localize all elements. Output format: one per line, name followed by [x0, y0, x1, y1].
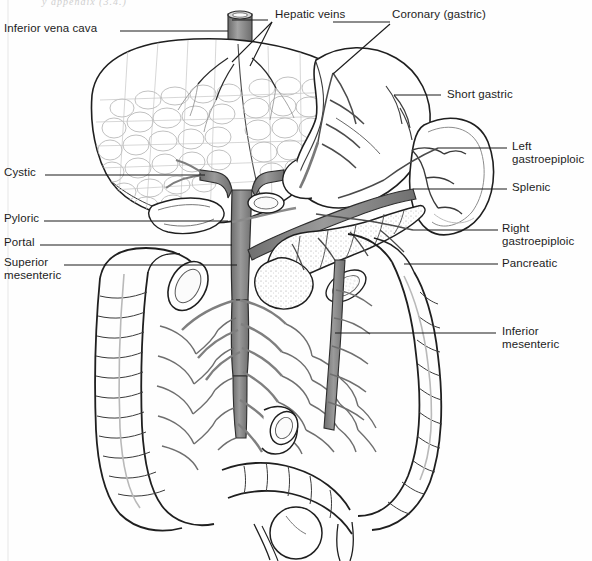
label-cystic: Cystic	[4, 166, 36, 179]
portal-venous-system-illustration	[0, 0, 592, 561]
label-right-gastroepiploic: Right gastroepiploic	[502, 222, 574, 247]
label-pancreatic: Pancreatic	[502, 257, 557, 270]
label-inferior-mesenteric: Inferior mesenteric	[502, 325, 559, 350]
ascending-colon-arcade	[157, 318, 236, 470]
label-splenic: Splenic	[512, 181, 550, 194]
duodenum-shape	[320, 263, 371, 308]
anatomy-figure: y appendix (3.4.)	[0, 0, 592, 561]
label-portal: Portal	[4, 236, 35, 249]
label-coronary-gastric: Coronary (gastric)	[392, 8, 486, 21]
label-short-gastric: Short gastric	[447, 88, 513, 101]
rectum-shape	[254, 407, 353, 561]
label-hepatic-veins: Hepatic veins	[275, 8, 345, 21]
label-inferior-vena-cava: Inferior vena cava	[4, 22, 97, 35]
spleen-shape	[410, 118, 494, 235]
label-pyloric: Pyloric	[4, 212, 39, 225]
label-left-gastroepiploic: Left gastroepiploic	[512, 140, 584, 165]
label-superior-mesenteric: Superior mesenteric	[4, 256, 61, 281]
ascending-colon-shape	[95, 248, 216, 531]
gallbladder-shape	[149, 198, 224, 234]
